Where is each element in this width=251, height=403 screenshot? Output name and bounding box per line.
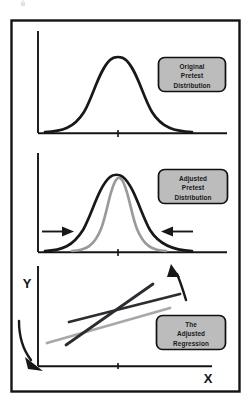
x-axis-label: X	[204, 371, 213, 386]
callout-original-line-2: Pretest	[181, 72, 204, 79]
callout-adjusted-line-3: Distribution	[174, 194, 211, 201]
callout-original-line-3: Distribution	[173, 82, 210, 89]
callout-original-pretest-distribution[interactable]: Original Pretest Distribution	[159, 58, 226, 92]
callout-adjusted-pretest-distribution[interactable]: Adjusted Pretest Distribution	[159, 170, 228, 204]
callout-adjusted-line-2: Pretest	[182, 184, 205, 191]
callout-adjusted-line-1: Adjusted	[179, 175, 207, 183]
callout-original-line-1: Original	[180, 63, 205, 71]
callout-regression-line-3: Regression	[173, 340, 209, 348]
diagram-canvas: Original Pretest Distribution	[0, 0, 251, 403]
callout-regression-line-2: Adjusted	[177, 330, 205, 338]
callout-the-adjusted-regression[interactable]: The Adjusted Regression	[157, 316, 226, 350]
y-axis-label: Y	[23, 276, 32, 291]
figure-root: Original Pretest Distribution	[0, 0, 251, 403]
callout-regression-line-1: The	[185, 321, 197, 328]
